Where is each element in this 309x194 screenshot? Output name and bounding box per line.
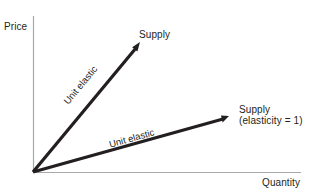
y-axis-label: Price [4, 21, 27, 32]
shallow-supply-label-line2: (elasticity = 1) [239, 115, 303, 126]
steep-supply-label: Supply [139, 29, 170, 40]
steep-supply-curve-group [33, 42, 140, 172]
shallow-supply-arrowhead [221, 116, 229, 123]
shallow-supply-label-line1: Supply [239, 104, 270, 115]
steep-supply-curve [33, 48, 136, 172]
shallow-supply-curve [33, 119, 223, 172]
shallow-supply-label: Supply (elasticity = 1) [239, 104, 303, 126]
supply-curve-figure: Price Quantity Supply Supply (elasticity… [0, 0, 309, 194]
x-axis-label: Quantity [262, 177, 300, 188]
